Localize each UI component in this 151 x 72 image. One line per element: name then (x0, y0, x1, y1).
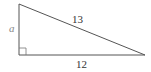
triangle-shape (19, 4, 145, 55)
right-triangle-diagram: a 13 12 (0, 0, 151, 72)
vertical-leg-label: a (9, 22, 15, 34)
hypotenuse-label: 13 (72, 13, 84, 25)
right-angle-marker (19, 48, 26, 55)
horizontal-leg-label: 12 (76, 58, 87, 70)
